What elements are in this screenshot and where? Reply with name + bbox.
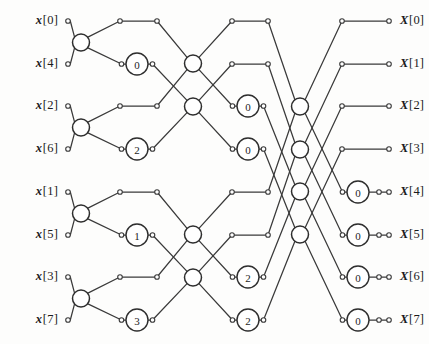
edge-s1-diff-1 [87, 133, 121, 149]
edge-s2-in-0 [157, 21, 187, 57]
edge-s1-diff-3 [87, 304, 121, 320]
terminal-s3b-4 [377, 190, 382, 195]
stage1-adder-2 [73, 205, 90, 222]
stage1-multiplier-2-label: 1 [134, 230, 140, 242]
terminal-s2a-5 [230, 233, 235, 238]
terminal-s1b-6 [155, 275, 160, 280]
output-label-7: X[7] [400, 312, 424, 327]
terminal-s1b-3 [150, 147, 155, 152]
edge-s3-sum-3 [305, 149, 342, 228]
edge-s3-diff-0 [305, 113, 342, 192]
input-terminal-1 [66, 62, 71, 67]
edge-in-0 [70, 21, 74, 37]
stage2-adder-2 [185, 226, 202, 243]
terminal-s2a-4 [230, 190, 235, 195]
terminal-s2a-6 [230, 275, 235, 280]
input-terminal-6 [66, 275, 71, 280]
terminal-s1a-7 [119, 318, 124, 323]
terminal-s3a-7 [340, 318, 345, 323]
input-symbol-4: x [36, 184, 43, 198]
flow-graph-canvas: 021300220000 [0, 0, 429, 344]
edge-in-3 [70, 133, 74, 149]
stage3-multiplier-0-label: 0 [355, 187, 361, 199]
stage2-adder-0 [185, 55, 202, 72]
terminal-s3a-0 [340, 19, 345, 24]
stage3-multiplier-1-label: 0 [355, 230, 361, 242]
stage1-adder-1 [73, 119, 90, 136]
stage3-adder-2 [292, 183, 309, 200]
output-terminal-1 [387, 62, 392, 67]
output-index-2: [2] [409, 98, 424, 112]
edge-s3-diff-2 [305, 198, 342, 277]
output-label-1: X[1] [400, 56, 424, 71]
output-symbol-1: X [400, 56, 409, 70]
input-label-7: x[7] [4, 312, 58, 327]
input-index-7: [7] [43, 312, 58, 326]
stage3-adder-3 [292, 226, 309, 243]
output-terminal-0 [387, 19, 392, 24]
edge-s1-sum-3 [87, 277, 120, 293]
terminal-s1b-0 [155, 19, 160, 24]
terminal-s2b-0 [266, 19, 271, 24]
edge-s2-sum-0 [199, 21, 232, 57]
stage3-multiplier-3-label: 0 [355, 315, 361, 327]
input-index-3: [6] [43, 141, 58, 155]
input-terminal-0 [66, 19, 71, 24]
edge-in-1 [70, 48, 74, 64]
terminal-s1a-0 [118, 19, 123, 24]
input-index-6: [3] [43, 269, 58, 283]
input-terminal-3 [66, 147, 71, 152]
terminal-s2b-4 [266, 190, 271, 195]
input-label-2: x[2] [4, 98, 58, 113]
edge-s3-sum-1 [305, 64, 342, 143]
edge-s3-diff-1 [305, 156, 342, 235]
input-terminal-7 [66, 318, 71, 323]
edge-s2-in-1 [153, 64, 188, 100]
edge-s2-diff-1 [199, 113, 233, 149]
edge-s3-sum-2 [305, 106, 342, 185]
stage2-adder-1 [185, 98, 202, 115]
edge-s2-diff-3 [199, 284, 233, 320]
output-index-5: [5] [409, 227, 424, 241]
input-symbol-7: x [36, 312, 43, 326]
adder-layer [73, 34, 309, 307]
stage1-multiplier-1-label: 2 [134, 144, 140, 156]
terminal-s2a-2 [230, 104, 235, 109]
terminal-s1b-2 [155, 104, 160, 109]
terminal-s1b-4 [155, 190, 160, 195]
input-index-5: [5] [43, 227, 58, 241]
edge-s2-diff-2 [199, 241, 233, 277]
output-symbol-0: X [400, 13, 409, 27]
stage1-adder-0 [73, 34, 90, 51]
terminal-s1a-3 [119, 147, 124, 152]
edge-s1-sum-0 [87, 21, 120, 37]
edge-s2-in-3 [153, 113, 188, 149]
terminal-s2b-7 [261, 318, 266, 323]
input-symbol-0: x [36, 13, 43, 27]
output-terminal-3 [387, 147, 392, 152]
output-terminal-5 [387, 233, 392, 238]
edge-in-6 [70, 277, 74, 293]
edge-layer [70, 21, 386, 320]
input-symbol-6: x [36, 269, 43, 283]
output-symbol-5: X [400, 227, 409, 241]
output-terminal-7 [387, 318, 392, 323]
terminal-s1b-5 [150, 233, 155, 238]
output-index-7: [7] [409, 312, 424, 326]
terminal-s3a-3 [340, 147, 345, 152]
output-terminal-2 [387, 104, 392, 109]
terminal-s2b-6 [261, 275, 266, 280]
output-label-0: X[0] [400, 13, 424, 28]
input-label-5: x[5] [4, 227, 58, 242]
input-terminal-4 [66, 190, 71, 195]
terminal-s1a-5 [119, 233, 124, 238]
input-symbol-1: x [36, 56, 43, 70]
terminal-s1b-1 [150, 62, 155, 67]
stage3-adder-0 [292, 98, 309, 115]
output-index-4: [4] [409, 184, 424, 198]
terminal-s1a-6 [118, 275, 123, 280]
terminal-s3a-5 [340, 233, 345, 238]
edge-s3-in-1 [268, 64, 295, 143]
output-symbol-7: X [400, 312, 409, 326]
stage2-multiplier-1-label: 0 [245, 144, 251, 156]
